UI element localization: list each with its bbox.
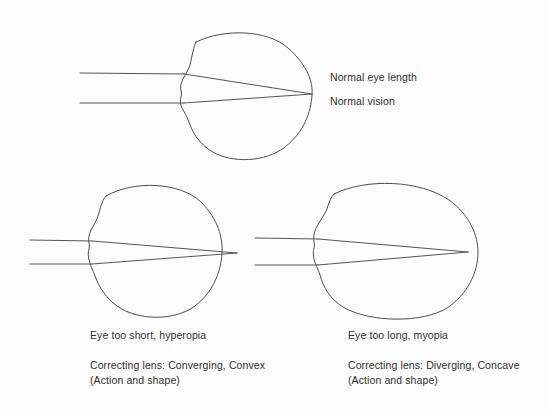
normal-vision-label: Normal vision [330, 94, 395, 109]
hyperopia-ray-top-refracted [92, 241, 237, 253]
myopia-lens-sublabel: (Action and shape) [348, 373, 438, 388]
diagram-canvas [0, 0, 548, 410]
eye-refraction-diagram: Normal eye length Normal vision Eye too … [0, 0, 548, 410]
hyperopia-lens-sublabel: (Action and shape) [90, 373, 180, 388]
hyperopia-ray-top-incoming [30, 240, 92, 241]
normal-eyeball-outline [180, 33, 312, 160]
myopia-ray-top-incoming [255, 238, 318, 239]
normal-eye-group [80, 33, 312, 160]
myopia-eye-group [255, 183, 478, 319]
hyperopia-lens-label: Correcting lens: Converging, Convex [90, 358, 265, 373]
myopia-lens-label: Correcting lens: Diverging, Concave [348, 358, 520, 373]
myopia-condition-label: Eye too long, myopia [348, 328, 448, 343]
myopia-eyeball-outline [313, 183, 478, 319]
hyperopia-condition-label: Eye too short, hyperopia [90, 328, 206, 343]
hyperopia-ray-bottom-refracted [92, 253, 237, 264]
normal-ray-top-refracted [184, 74, 312, 94]
myopia-ray-top-refracted [318, 239, 468, 252]
normal-ray-bottom-refracted [184, 94, 312, 103]
myopia-ray-bottom-refracted [318, 252, 468, 265]
hyperopia-eyeball-outline [88, 185, 222, 317]
hyperopia-eye-group [30, 185, 237, 317]
normal-eye-length-label: Normal eye length [330, 70, 417, 85]
normal-ray-top-incoming [80, 73, 184, 74]
